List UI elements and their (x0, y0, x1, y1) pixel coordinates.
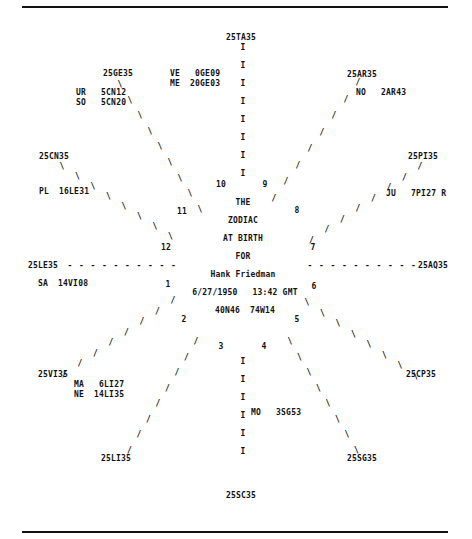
vertical-line-glyph: I (241, 43, 246, 52)
horizontal-line-glyph: - (319, 261, 324, 270)
diagonal-line-glyph: / (62, 370, 67, 379)
horizontal-line-glyph: - (342, 261, 347, 270)
horizontal-line-glyph: - (79, 261, 84, 270)
diagonal-line-glyph: / (402, 173, 407, 182)
diagonal-line-glyph: \ (288, 337, 293, 346)
planet-saturn: SA 14VI08 (38, 279, 88, 288)
cusp-right-lower: 25CP35 (406, 370, 436, 379)
planet-sun: SO 5CN20 (76, 98, 126, 107)
diagonal-line-glyph: \ (316, 384, 321, 393)
horizontal-line-glyph: - (308, 261, 313, 270)
diagonal-line-glyph: / (418, 162, 423, 171)
cusp-top-left: 25GE35 (103, 69, 133, 78)
title-line-2: ZODIAC (228, 216, 258, 225)
planet-node: NO 2AR43 (356, 88, 406, 97)
diagonal-line-glyph: / (137, 430, 142, 439)
vertical-line-glyph: I (241, 375, 246, 384)
diagonal-line-glyph: \ (307, 368, 312, 377)
diagonal-line-glyph: / (309, 236, 314, 245)
diagonal-line-glyph: / (140, 317, 145, 326)
diagonal-line-glyph: \ (297, 353, 302, 362)
bottom-rule (22, 531, 448, 533)
diagonal-line-glyph: / (78, 359, 83, 368)
diagonal-line-glyph: \ (158, 142, 163, 151)
diagonal-line-glyph: \ (336, 319, 341, 328)
planet-jupiter: JU 7PI27 R (386, 189, 446, 198)
cusp-left-upper: 25CN35 (39, 152, 69, 161)
planet-pluto: PL 16LE31 (39, 187, 89, 196)
vertical-line-glyph: I (241, 61, 246, 70)
diagonal-line-glyph: / (156, 399, 161, 408)
cusp-left: 25LE35 (28, 261, 58, 270)
diagonal-line-glyph: \ (335, 415, 340, 424)
horizontal-line-glyph: - (411, 261, 416, 270)
diagonal-line-glyph: \ (106, 192, 111, 201)
diagonal-line-glyph: \ (137, 212, 142, 221)
diagonal-line-glyph: / (308, 144, 313, 153)
diagonal-line-glyph: / (320, 128, 325, 137)
diagonal-line-glyph: \ (382, 351, 387, 360)
diagonal-line-glyph: \ (345, 430, 350, 439)
diagonal-line-glyph: / (194, 337, 199, 346)
cusp-right-upper: 25PI35 (408, 152, 438, 161)
diagonal-line-glyph: \ (60, 162, 65, 171)
cusp-bottom-left: 25LI35 (101, 454, 131, 463)
house-11: 11 (177, 207, 187, 216)
diagonal-line-glyph: \ (128, 96, 133, 105)
title-line-4: FOR (235, 252, 250, 261)
diagonal-line-glyph: / (325, 225, 330, 234)
house-12: 12 (161, 243, 171, 252)
vertical-line-glyph: I (241, 97, 246, 106)
diagonal-line-glyph: / (371, 194, 376, 203)
top-rule (22, 6, 448, 8)
diagonal-line-glyph: / (284, 177, 289, 186)
diagonal-line-glyph: / (272, 194, 277, 203)
diagonal-line-glyph: \ (138, 111, 143, 120)
diagonal-line-glyph: \ (305, 298, 310, 307)
house-4: 4 (261, 342, 266, 351)
title-line-1: THE (235, 198, 250, 207)
diagonal-line-glyph: / (171, 296, 176, 305)
diagonal-line-glyph: \ (153, 222, 158, 231)
diagonal-line-glyph: / (109, 338, 114, 347)
diagonal-line-glyph: / (155, 307, 160, 316)
diagonal-line-glyph: \ (91, 182, 96, 191)
diagonal-line-glyph: / (332, 111, 337, 120)
planet-moon: MO 3SG53 (251, 408, 301, 417)
person-name: Hank Friedman (210, 270, 275, 279)
diagonal-line-glyph: \ (122, 202, 127, 211)
diagonal-line-glyph: \ (188, 189, 193, 198)
diagonal-line-glyph: / (356, 204, 361, 213)
diagonal-line-glyph: \ (354, 446, 359, 455)
house-3: 3 (218, 342, 223, 351)
horizontal-line-glyph: - (125, 261, 130, 270)
cusp-bottom-right: 25SG35 (347, 454, 377, 463)
cusp-top: 25TA35 (226, 33, 256, 42)
vertical-line-glyph: I (241, 429, 246, 438)
diagonal-line-glyph: / (146, 415, 151, 424)
diagonal-line-glyph: \ (367, 340, 372, 349)
planet-uranus: UR 5CN12 (76, 88, 126, 97)
vertical-line-glyph: I (241, 393, 246, 402)
diagonal-line-glyph: \ (168, 158, 173, 167)
house-10: 10 (216, 180, 226, 189)
house-2: 2 (181, 315, 186, 324)
vertical-line-glyph: I (241, 447, 246, 456)
birth-date-time: 6/27/1950 13:42 GMT (192, 288, 297, 297)
cusp-right: 25AQ35 (418, 261, 448, 270)
diagonal-line-glyph: / (184, 353, 189, 362)
diagonal-line-glyph: \ (326, 399, 331, 408)
vertical-line-glyph: I (241, 357, 246, 366)
diagonal-line-glyph: / (387, 183, 392, 192)
horizontal-line-glyph: - (68, 261, 73, 270)
vertical-line-glyph: I (241, 169, 246, 178)
vertical-line-glyph: I (241, 133, 246, 142)
diagonal-line-glyph: \ (178, 174, 183, 183)
diagonal-line-glyph: \ (413, 372, 418, 381)
horizontal-line-glyph: - (102, 261, 107, 270)
horizontal-line-glyph: - (354, 261, 359, 270)
house-1: 1 (165, 280, 170, 289)
diagonal-line-glyph: / (124, 328, 129, 337)
horizontal-line-glyph: - (171, 261, 176, 270)
cusp-top-right: 25AR35 (347, 70, 377, 79)
